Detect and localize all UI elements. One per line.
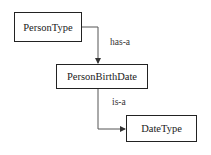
edge-label-has-a: has-a	[110, 37, 130, 47]
node-datetype: DateType	[126, 115, 197, 142]
edge-is-a	[98, 89, 125, 129]
edge-has-a	[82, 27, 98, 63]
edge-label-is-a: is-a	[112, 97, 126, 107]
node-personbirthdate: PersonBirthDate	[56, 64, 148, 89]
node-persontype: PersonType	[14, 12, 82, 42]
